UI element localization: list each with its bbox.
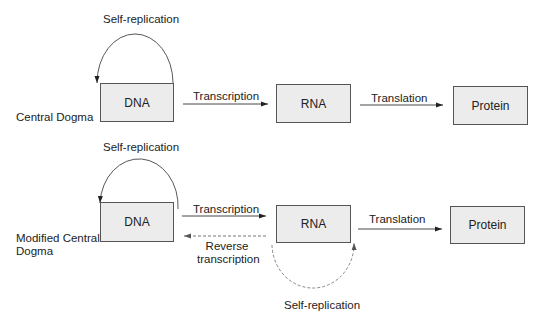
self-replication-label-top: Self-replication [103, 13, 179, 26]
connector-lines [0, 0, 540, 322]
row-label-line2: Dogma [16, 245, 100, 258]
reverse-transcription-label: Reverse transcription [197, 240, 257, 266]
node-dna-top-label: DNA [124, 96, 149, 110]
row-label-modified-central-dogma: Modified Central Dogma [16, 232, 100, 258]
node-rna-top-label: RNA [301, 97, 326, 111]
node-dna-top: DNA [100, 83, 174, 122]
translation-label-top: Translation [371, 92, 427, 105]
transcription-label-bottom: Transcription [193, 203, 259, 216]
dna-self-replication-arc-top [97, 34, 173, 83]
node-rna-bottom-label: RNA [301, 217, 326, 231]
rna-self-replication-arc [272, 243, 354, 288]
node-protein-bottom-label: Protein [468, 218, 506, 232]
node-rna-top: RNA [276, 84, 351, 123]
self-replication-label-rna: Self-replication [284, 299, 360, 312]
transcription-label-top: Transcription [193, 90, 259, 103]
node-protein-bottom: Protein [450, 206, 525, 244]
row-label-central-dogma: Central Dogma [16, 111, 93, 124]
node-dna-bottom: DNA [100, 202, 174, 242]
self-replication-label-dna-bottom: Self-replication [103, 141, 179, 154]
translation-label-bottom: Translation [369, 213, 425, 226]
central-dogma-diagram: Self-replication Central Dogma DNA Trans… [0, 0, 540, 322]
node-dna-bottom-label: DNA [124, 215, 149, 229]
reverse-transcription-line1: Reverse [197, 240, 257, 253]
reverse-transcription-line2: transcription [197, 253, 257, 266]
node-protein-top: Protein [453, 86, 528, 125]
node-rna-bottom: RNA [276, 205, 351, 243]
row-label-line1: Modified Central [16, 232, 100, 245]
node-protein-top-label: Protein [471, 99, 509, 113]
